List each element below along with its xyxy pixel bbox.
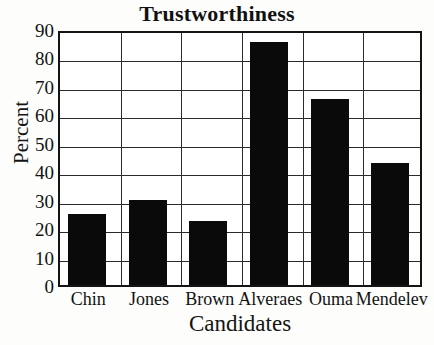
gridline-y-70	[60, 90, 420, 91]
y-tick-0: 0	[8, 277, 54, 296]
gridline-y-40	[60, 175, 420, 176]
bar-chart: Trustworthiness Percent 0102030405060708…	[0, 0, 434, 345]
bar-ouma	[311, 99, 349, 285]
gridline-x-1	[121, 33, 122, 285]
y-tick-50: 50	[8, 135, 54, 154]
y-tick-20: 20	[8, 220, 54, 239]
gridline-y-10	[60, 261, 420, 262]
gridline-x-2	[181, 33, 182, 285]
y-tick-40: 40	[8, 163, 54, 182]
gridline-y-30	[60, 204, 420, 205]
bar-brown	[189, 221, 227, 285]
y-tick-90: 90	[8, 21, 54, 40]
x-axis-label: Candidates	[58, 311, 422, 337]
gridline-y-50	[60, 147, 420, 148]
gridline-x-4	[303, 33, 304, 285]
y-tick-60: 60	[8, 106, 54, 125]
y-tick-80: 80	[8, 49, 54, 68]
x-tick-mendelev: Mendelev	[355, 288, 428, 310]
bar-chin	[68, 214, 106, 285]
gridline-x-5	[363, 33, 364, 285]
y-tick-10: 10	[8, 249, 54, 268]
gridline-x-3	[242, 33, 243, 285]
y-tick-70: 70	[8, 78, 54, 97]
bar-jones	[129, 200, 167, 285]
plot-area	[58, 31, 422, 287]
bar-mendelev	[371, 163, 409, 285]
y-axis-tick-labels: 0102030405060708090	[0, 31, 54, 287]
gridline-y-60	[60, 118, 420, 119]
gridline-y-80	[60, 61, 420, 62]
y-tick-30: 30	[8, 192, 54, 211]
chart-title: Trustworthiness	[0, 1, 434, 27]
gridline-y-20	[60, 232, 420, 233]
x-axis-tick-labels: ChinJonesBrownAlveraesOumaMendelev	[58, 288, 422, 312]
bar-alveraes	[250, 42, 288, 285]
